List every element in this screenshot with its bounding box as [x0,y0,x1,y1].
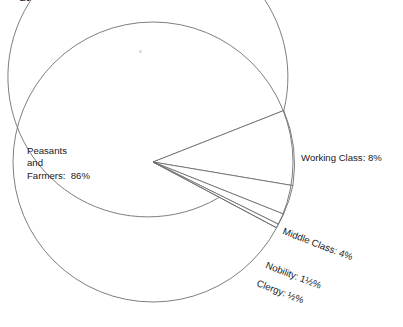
pie-slices [8,0,295,228]
pie-label-peasants-and-farmers: Peasants and Farmers: 86% [27,145,90,182]
print-artifact-speck [139,50,142,53]
pie-label-working-class: Working Class: 8% [301,152,382,164]
